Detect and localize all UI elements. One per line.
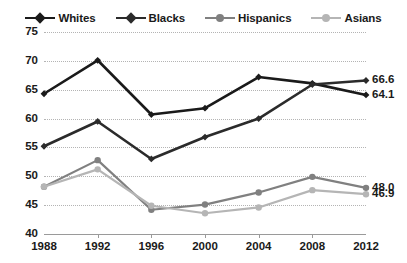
series-hispanics [41,157,369,213]
data-point-marker [363,77,370,84]
data-point-marker [309,174,315,180]
series-blacks [41,77,370,162]
data-point-marker [202,201,208,207]
data-point-marker [148,203,154,209]
data-point-marker [255,189,261,195]
data-point-marker [363,191,369,197]
end-value-label-whites: 64.1 [372,89,394,101]
series-asians [41,166,369,216]
data-point-marker [202,134,209,141]
data-point-marker [363,92,370,99]
data-point-marker [309,187,315,193]
end-value-label-asians: 46.9 [372,188,394,200]
series-whites [41,57,370,118]
end-value-label-blacks: 66.6 [372,74,394,86]
data-point-marker [363,185,369,191]
line-chart: WhitesBlacksHispanicsAsians 404550556065… [0,0,407,263]
data-point-marker [255,204,261,210]
series-layer [0,0,407,263]
series-line [44,80,366,158]
data-point-marker [41,183,47,189]
data-point-marker [202,210,208,216]
data-point-marker [94,166,100,172]
data-point-marker [94,157,100,163]
